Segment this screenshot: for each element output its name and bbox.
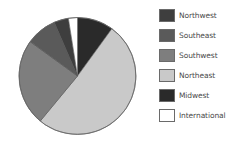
legend-item-northeast: Northeast bbox=[159, 68, 215, 82]
legend-item-international: International bbox=[159, 108, 226, 122]
legend-item-northwest: Northwest bbox=[159, 8, 217, 22]
legend-swatch bbox=[159, 69, 175, 82]
legend-item-midwest: Midwest bbox=[159, 88, 209, 102]
legend-swatch bbox=[159, 89, 175, 102]
legend-label: Southwest bbox=[179, 51, 218, 60]
legend-swatch bbox=[159, 29, 175, 42]
legend-item-southwest: Southwest bbox=[159, 48, 218, 62]
legend-label: Northwest bbox=[179, 11, 217, 20]
legend-label: Northeast bbox=[179, 71, 215, 80]
pie-chart bbox=[0, 0, 150, 142]
legend-label: International bbox=[179, 111, 226, 120]
legend-swatch bbox=[159, 109, 175, 122]
legend-label: Southeast bbox=[179, 31, 216, 40]
legend-swatch bbox=[159, 9, 175, 22]
legend-label: Midwest bbox=[179, 91, 209, 100]
legend-swatch bbox=[159, 49, 175, 62]
legend-item-southeast: Southeast bbox=[159, 28, 216, 42]
